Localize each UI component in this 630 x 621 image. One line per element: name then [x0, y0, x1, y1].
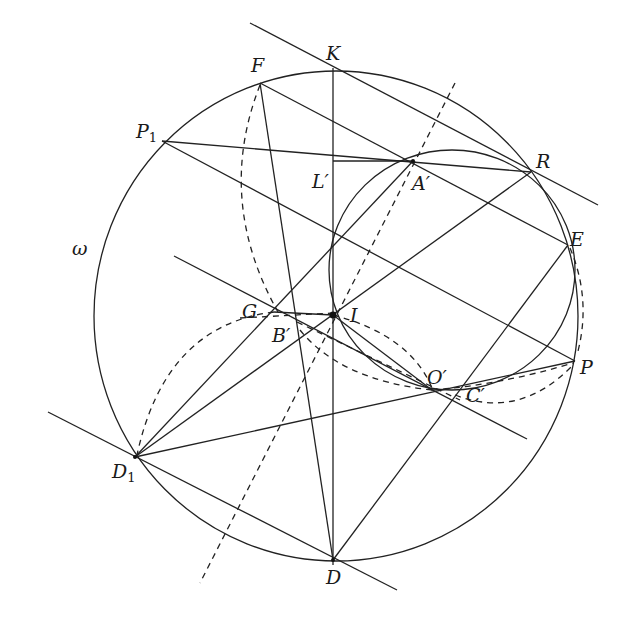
point-d [331, 558, 335, 562]
line-g-i [274, 312, 333, 315]
point-d1 [133, 455, 137, 459]
label-b-prime: B′ [271, 324, 291, 346]
line-tangent-d1-d [48, 412, 397, 590]
line-p1-r [162, 141, 531, 172]
line-i-o [333, 315, 432, 390]
circle-inner [329, 150, 575, 390]
point-a-prime [411, 159, 415, 163]
label-omega: ω [72, 237, 88, 259]
label-p: P [579, 356, 594, 378]
label-o-prime: O′ [427, 366, 448, 388]
label-r: R [535, 150, 550, 172]
label-e: E [569, 228, 584, 250]
label-l-prime: L′ [311, 170, 330, 192]
label-d: D [325, 566, 341, 588]
dashed-arc-b-o [300, 330, 432, 390]
label-c-prime: C′ [466, 384, 486, 406]
line-p1-p [162, 141, 575, 361]
label-d1: D1 [111, 460, 136, 485]
line-e-d [333, 245, 568, 560]
label-g: G [242, 300, 257, 322]
dashed-arc-f-g [241, 85, 278, 312]
geometry-diagram: K F P1 R L′ A′ E ω G B′ I O′ C′ P D1 D [0, 0, 630, 621]
label-a-prime: A′ [410, 172, 431, 194]
dashed-line-a [200, 83, 455, 583]
point-i [330, 312, 337, 319]
line-a-d1 [135, 161, 413, 457]
label-f: F [250, 54, 265, 76]
label-p1: P1 [135, 120, 157, 145]
label-i: I [349, 304, 358, 326]
label-k: K [325, 42, 342, 64]
